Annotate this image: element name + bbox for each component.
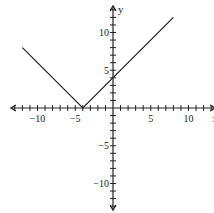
y-tick-label: 5 [104, 65, 109, 76]
x-tick-label: 10 [184, 113, 194, 124]
x-tick-label: −10 [30, 113, 46, 124]
x-tick-label: 5 [148, 113, 153, 124]
plot-area [22, 17, 173, 108]
x-axis-label: x [212, 112, 214, 124]
y-axis-label: y [118, 3, 124, 15]
y-tick-label: −10 [93, 178, 109, 189]
series-line [22, 17, 173, 108]
y-tick-label: 10 [99, 27, 109, 38]
x-tick-label: −5 [70, 113, 81, 124]
graph: −10−5510105−5−10 x y [0, 0, 214, 213]
axes [11, 6, 214, 210]
y-tick-label: −5 [98, 140, 109, 151]
